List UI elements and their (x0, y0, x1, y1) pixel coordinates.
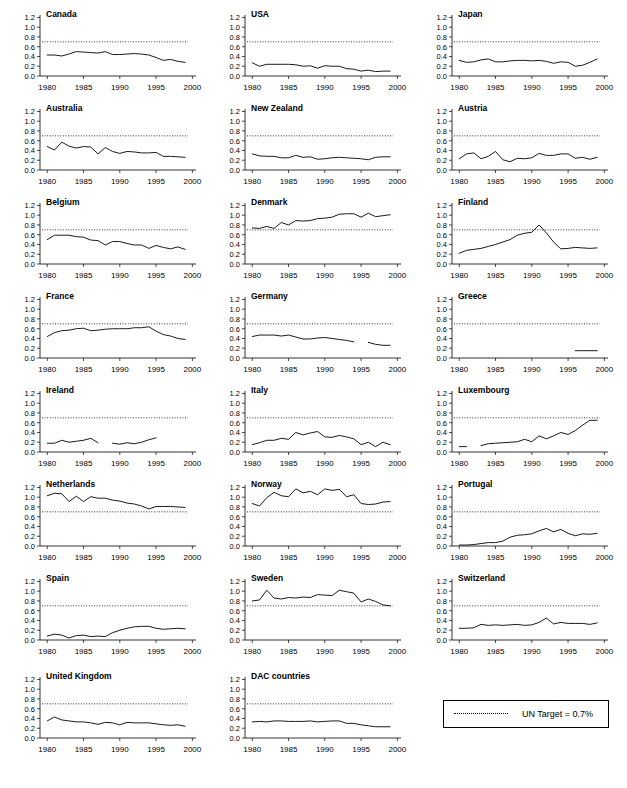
x-tick-label: 1985 (487, 83, 505, 92)
y-tick-label: 0.8 (437, 221, 447, 230)
y-tick-label: 0.4 (25, 428, 35, 437)
x-tick-label: 1995 (352, 177, 370, 186)
y-tick-label: 0.6 (230, 607, 240, 616)
x-tick-label: 1990 (316, 553, 334, 562)
x-tick-label: 1990 (111, 647, 129, 656)
x-tick-label: 2000 (183, 459, 201, 468)
y-tick-label: 0.8 (230, 127, 240, 136)
y-tick-label: 1.2 (25, 483, 35, 492)
x-tick-label: 1990 (523, 647, 541, 656)
y-tick-label: 0.4 (230, 428, 240, 437)
y-tick-label: 0.6 (230, 419, 240, 428)
x-tick-label: 1995 (147, 271, 165, 280)
y-tick-label: 0.2 (230, 62, 240, 71)
x-tick-label: 1990 (111, 83, 129, 92)
chart-panel: axis-lines0.00.20.40.60.81.01.2198019851… (412, 97, 617, 191)
chart-panel: axis-lines0.00.20.40.60.81.01.2198019851… (0, 567, 205, 661)
y-tick-label: 0.4 (25, 52, 35, 61)
x-tick-label: 1985 (280, 271, 298, 280)
y-tick-label: 0.2 (25, 156, 35, 165)
y-tick-label: 0.0 (437, 448, 447, 457)
panel-title: Switzerland (458, 573, 505, 583)
panel-title: Australia (46, 103, 83, 113)
y-tick-label: 0.2 (25, 250, 35, 259)
chart-panel: axis-lines0.00.20.40.60.81.01.2198019851… (0, 285, 205, 379)
y-tick-label: 0.4 (25, 146, 35, 155)
y-tick-label: 1.2 (437, 201, 447, 210)
y-tick-label: 0.8 (25, 33, 35, 42)
y-tick-label: 0.0 (437, 542, 447, 551)
chart-panel: axis-lines0.00.20.40.60.81.01.2198019851… (205, 285, 410, 379)
y-tick-label: 0.4 (25, 522, 35, 531)
y-tick-label: 1.0 (230, 685, 240, 694)
y-tick-label: 0.0 (230, 166, 240, 175)
y-tick-label: 1.2 (25, 389, 35, 398)
panel-title: Norway (251, 479, 282, 489)
panel-plot: axis-lines0.00.20.40.60.81.01.2198019851… (205, 97, 410, 191)
y-tick-label: 0.8 (230, 33, 240, 42)
y-tick-label: 0.0 (230, 636, 240, 645)
panel-title: Italy (251, 385, 268, 395)
x-tick-label: 1980 (450, 271, 468, 280)
y-tick-label: 1.2 (230, 483, 240, 492)
data-series-line (252, 721, 390, 727)
x-tick-label: 2000 (388, 365, 406, 374)
panel-plot: axis-lines0.00.20.40.60.81.01.2198019851… (0, 191, 205, 285)
panel-plot: axis-lines0.00.20.40.60.81.01.2198019851… (0, 665, 205, 759)
x-tick-label: 1980 (450, 365, 468, 374)
panel-plot: axis-lines0.00.20.40.60.81.01.2198019851… (205, 379, 410, 473)
y-tick-label: 0.6 (25, 231, 35, 240)
y-tick-label: 1.0 (437, 211, 447, 220)
x-tick-label: 1980 (243, 83, 261, 92)
y-tick-label: 1.2 (25, 577, 35, 586)
y-tick-label: 0.6 (437, 513, 447, 522)
y-tick-label: 0.2 (25, 724, 35, 733)
panel-title: Finland (458, 197, 488, 207)
y-tick-label: 0.6 (230, 325, 240, 334)
panel-plot: axis-lines0.00.20.40.60.81.01.2198019851… (412, 567, 617, 661)
y-tick-label: 0.6 (437, 419, 447, 428)
y-tick-label: 0.0 (437, 72, 447, 81)
chart-panel: axis-lines0.00.20.40.60.81.01.2198019851… (0, 473, 205, 567)
y-tick-label: 0.2 (230, 156, 240, 165)
data-series-line (459, 151, 597, 161)
x-tick-label: 1985 (280, 177, 298, 186)
y-tick-label: 1.2 (230, 389, 240, 398)
data-series-line (47, 437, 178, 444)
x-tick-label: 1990 (316, 459, 334, 468)
x-tick-label: 1985 (280, 459, 298, 468)
x-tick-label: 1985 (487, 459, 505, 468)
y-tick-label: 0.4 (25, 616, 35, 625)
y-tick-label: 0.2 (437, 626, 447, 635)
panel-plot: axis-lines0.00.20.40.60.81.01.2198019851… (412, 379, 617, 473)
panel-plot: axis-lines0.00.20.40.60.81.01.2198019851… (0, 567, 205, 661)
x-tick-label: 1980 (38, 271, 56, 280)
x-tick-label: 1985 (75, 459, 93, 468)
y-tick-label: 0.0 (230, 448, 240, 457)
x-tick-label: 1990 (316, 745, 334, 754)
data-series-line (252, 590, 390, 606)
y-tick-label: 0.6 (437, 325, 447, 334)
x-tick-label: 2000 (183, 553, 201, 562)
x-tick-label: 2000 (595, 83, 613, 92)
panel-title: Spain (46, 573, 69, 583)
y-tick-label: 1.0 (230, 493, 240, 502)
y-tick-label: 0.0 (437, 354, 447, 363)
y-tick-label: 0.0 (437, 260, 447, 269)
x-tick-label: 1980 (38, 365, 56, 374)
y-tick-label: 0.0 (25, 72, 35, 81)
data-series-line (47, 717, 185, 726)
x-tick-label: 1990 (111, 177, 129, 186)
data-series-line (252, 432, 390, 447)
y-tick-label: 0.6 (25, 705, 35, 714)
panel-title: Greece (458, 291, 487, 301)
y-tick-label: 1.0 (25, 685, 35, 694)
y-tick-label: 1.0 (230, 305, 240, 314)
x-tick-label: 2000 (183, 83, 201, 92)
x-tick-label: 2000 (183, 271, 201, 280)
x-tick-label: 1985 (280, 83, 298, 92)
x-tick-label: 1980 (38, 745, 56, 754)
y-tick-label: 1.0 (437, 493, 447, 502)
x-tick-label: 2000 (388, 459, 406, 468)
y-tick-label: 1.2 (25, 675, 35, 684)
